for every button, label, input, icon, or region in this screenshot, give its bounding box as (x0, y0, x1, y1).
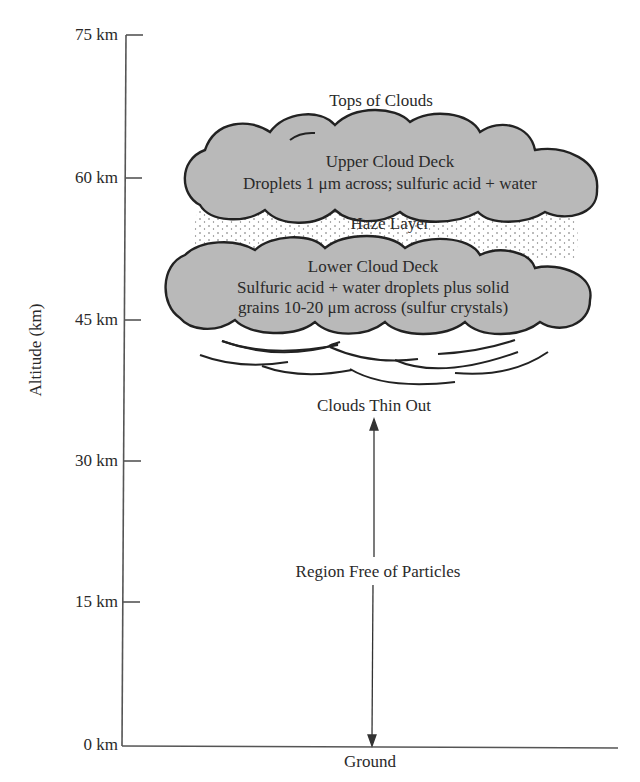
lower-cloud-desc-line2: grains 10-20 μm across (sulfur crystals) (238, 298, 508, 318)
y-axis-label: Altitude (km) (26, 303, 46, 396)
tick-label-75: 75 km (28, 25, 118, 45)
ground-label: Ground (344, 752, 396, 772)
tick-label-0: 0 km (28, 735, 118, 755)
tick-label-60: 60 km (28, 168, 118, 188)
haze-layer-label: Haze Layer (351, 214, 430, 234)
tick-label-15: 15 km (28, 592, 118, 612)
free-region-arrow (368, 419, 378, 746)
thinning-cloud-wisps (200, 340, 548, 384)
ground-line (122, 746, 618, 748)
lower-cloud-desc-line1: Sulfuric acid + water droplets plus soli… (237, 278, 509, 298)
upper-cloud-title: Upper Cloud Deck (326, 152, 454, 172)
upper-cloud-desc: Droplets 1 μm across; sulfuric acid + wa… (243, 174, 537, 194)
tick-label-30: 30 km (28, 451, 118, 471)
lower-cloud-title: Lower Cloud Deck (308, 257, 438, 277)
free-region-label: Region Free of Particles (296, 562, 461, 582)
clouds-thin-out-label: Clouds Thin Out (317, 396, 431, 416)
tops-of-clouds-label: Tops of Clouds (329, 91, 433, 111)
diagram-canvas (0, 0, 640, 782)
y-axis (122, 35, 143, 746)
